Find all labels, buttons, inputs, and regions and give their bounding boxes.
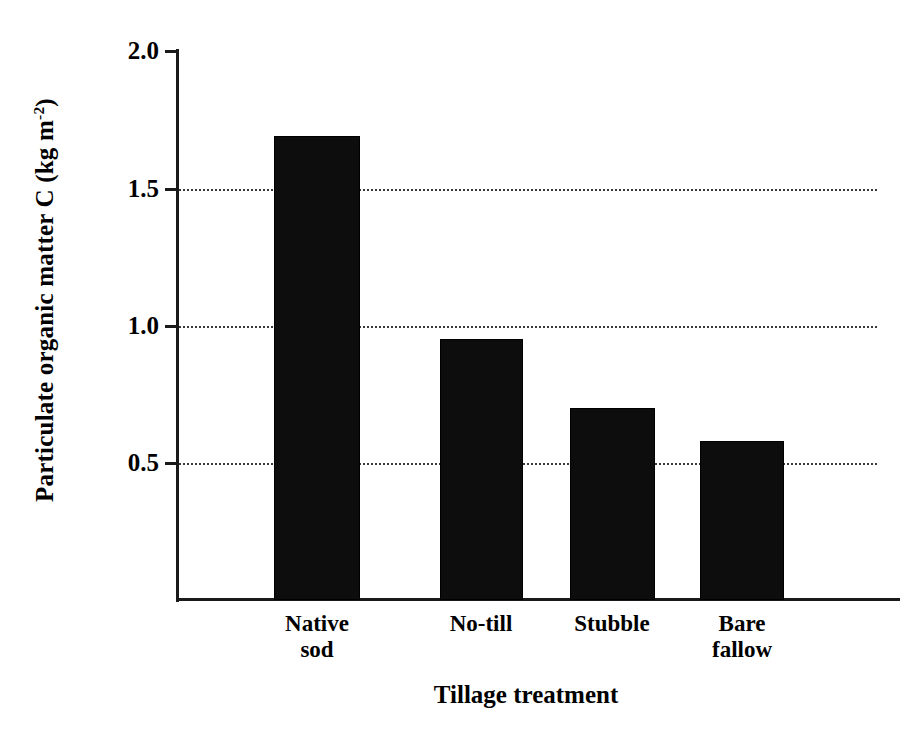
y-tick-label-container-2.0: 2.0 bbox=[95, 38, 159, 64]
y-tick-label-container-1.5: 1.5 bbox=[95, 176, 159, 202]
y-tick-label-2.0: 2.0 bbox=[99, 38, 159, 63]
x-axis-title: Tillage treatment bbox=[176, 681, 876, 709]
y-axis-title-tail: ) bbox=[31, 98, 58, 107]
chart-figure: Particulate organic matter C (kg m-2) 2.… bbox=[0, 0, 922, 744]
x-tick-label-native-sod-line2: sod bbox=[232, 637, 402, 663]
y-tick-mark-0.5 bbox=[165, 462, 179, 465]
y-tick-label-0.5: 0.5 bbox=[99, 450, 159, 475]
x-tick-label-bare-fallow-line1: Bare bbox=[657, 611, 827, 637]
y-axis-title-container: Particulate organic matter C (kg m-2) bbox=[0, 0, 90, 600]
bar-stubble bbox=[570, 408, 655, 600]
y-tick-label-container-1.0: 1.0 bbox=[95, 313, 159, 339]
y-axis-title: Particulate organic matter C (kg m-2) bbox=[31, 98, 59, 502]
y-axis-title-superscript: -2 bbox=[30, 107, 47, 120]
x-tick-label-bare-fallow-line2: fallow bbox=[657, 637, 827, 663]
y-axis-title-main: Particulate organic matter C (kg m bbox=[31, 120, 58, 502]
x-tick-label-native-sod: Native sod bbox=[232, 611, 402, 663]
x-tick-label-native-sod-line1: Native bbox=[232, 611, 402, 637]
y-tick-mark-1.0 bbox=[165, 325, 179, 328]
bar-bare-fallow bbox=[700, 441, 784, 600]
y-tick-mark-1.5 bbox=[165, 188, 179, 191]
bar-no-till bbox=[440, 339, 523, 600]
y-tick-label-1.5: 1.5 bbox=[99, 176, 159, 201]
bar-native-sod bbox=[274, 136, 360, 600]
y-tick-label-1.0: 1.0 bbox=[99, 313, 159, 338]
x-tick-label-bare-fallow: Bare fallow bbox=[657, 611, 827, 663]
y-tick-label-container-0.5: 0.5 bbox=[95, 450, 159, 476]
y-tick-mark-2.0 bbox=[165, 50, 179, 53]
